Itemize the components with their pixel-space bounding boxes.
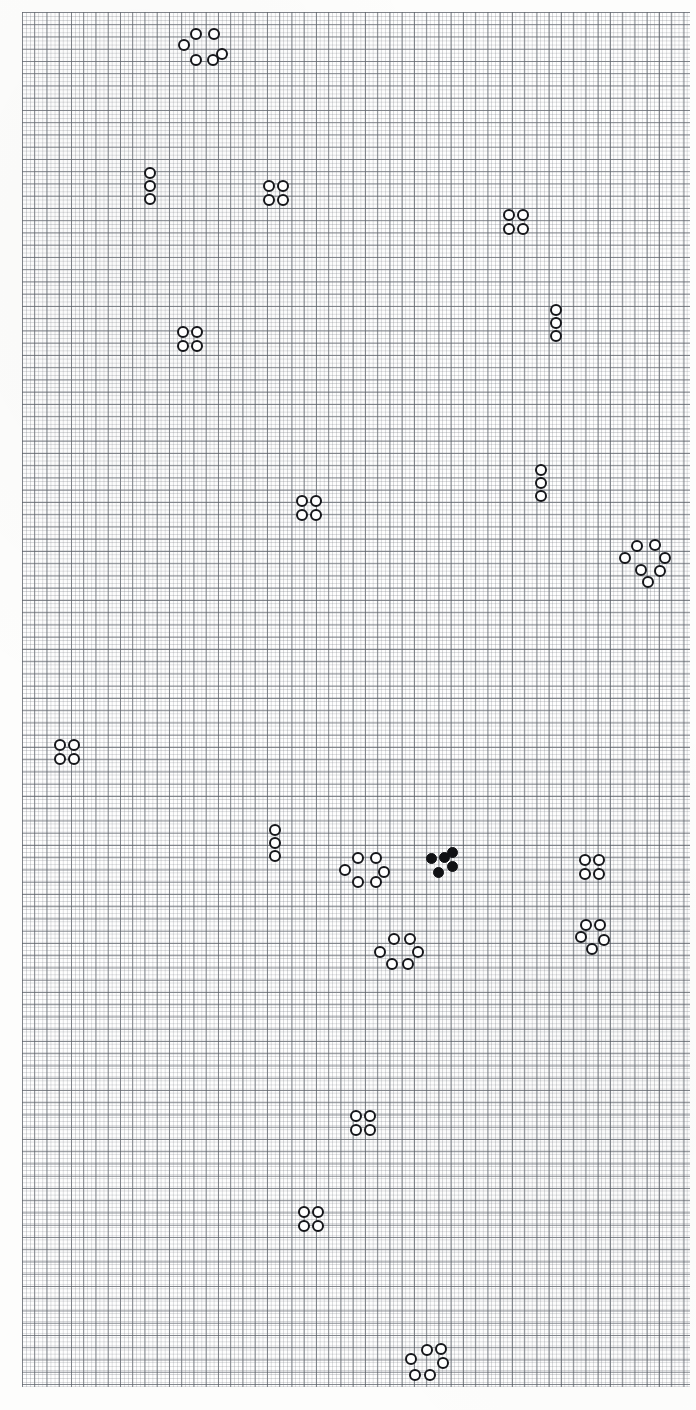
open-circle-marker <box>190 54 202 66</box>
open-circle-marker <box>296 495 308 507</box>
open-circle-marker <box>269 837 281 849</box>
open-circle-marker <box>586 943 598 955</box>
open-circle-marker <box>296 509 308 521</box>
open-circle-marker <box>68 739 80 751</box>
open-circle-marker <box>575 931 587 943</box>
open-circle-marker <box>144 193 156 205</box>
open-circle-marker <box>503 223 515 235</box>
open-circle-marker <box>402 958 414 970</box>
open-circle-marker <box>631 540 643 552</box>
open-circle-marker <box>269 824 281 836</box>
open-circle-marker <box>503 209 515 221</box>
open-circle-marker <box>550 304 562 316</box>
open-circle-marker <box>593 854 605 866</box>
open-circle-marker <box>177 340 189 352</box>
open-circle-marker <box>269 850 281 862</box>
open-circle-marker <box>54 753 66 765</box>
open-circle-marker <box>144 167 156 179</box>
open-circle-marker <box>68 753 80 765</box>
open-circle-marker <box>404 933 416 945</box>
open-circle-marker <box>409 1369 421 1381</box>
open-circle-marker <box>535 490 547 502</box>
open-circle-marker <box>535 464 547 476</box>
open-circle-marker <box>405 1353 417 1365</box>
open-circle-marker <box>263 194 275 206</box>
open-circle-marker <box>298 1206 310 1218</box>
open-circle-marker <box>277 194 289 206</box>
open-circle-marker <box>191 326 203 338</box>
open-circle-marker <box>378 866 390 878</box>
open-circle-marker <box>312 1220 324 1232</box>
graph-paper-figure <box>0 0 696 1410</box>
cluster-overlay <box>0 0 696 1410</box>
open-circle-marker <box>635 564 647 576</box>
open-circle-marker <box>364 1110 376 1122</box>
open-circle-marker <box>312 1206 324 1218</box>
open-circle-marker <box>190 28 202 40</box>
open-circle-marker <box>370 852 382 864</box>
open-circle-marker <box>352 852 364 864</box>
open-circle-marker <box>298 1220 310 1232</box>
open-circle-marker <box>593 868 605 880</box>
open-circle-marker <box>580 919 592 931</box>
open-circle-marker <box>352 876 364 888</box>
open-circle-marker <box>374 946 386 958</box>
open-circle-marker <box>388 933 400 945</box>
open-circle-marker <box>277 180 289 192</box>
open-circle-marker <box>579 868 591 880</box>
filled-circle-marker <box>426 853 437 864</box>
filled-circle-marker <box>433 867 444 878</box>
open-circle-marker <box>144 180 156 192</box>
open-circle-marker <box>642 576 654 588</box>
open-circle-marker <box>654 565 666 577</box>
open-circle-marker <box>350 1110 362 1122</box>
filled-circle-marker <box>447 861 458 872</box>
open-circle-marker <box>370 876 382 888</box>
open-circle-marker <box>598 934 610 946</box>
open-circle-marker <box>649 539 661 551</box>
open-circle-marker <box>424 1369 436 1381</box>
open-circle-marker <box>191 340 203 352</box>
filled-circle-marker <box>447 847 458 858</box>
open-circle-marker <box>517 223 529 235</box>
open-circle-marker <box>263 180 275 192</box>
open-circle-marker <box>435 1343 447 1355</box>
open-circle-marker <box>579 854 591 866</box>
open-circle-marker <box>550 330 562 342</box>
open-circle-marker <box>550 317 562 329</box>
open-circle-marker <box>517 209 529 221</box>
open-circle-marker <box>310 495 322 507</box>
open-circle-marker <box>364 1124 376 1136</box>
open-circle-marker <box>350 1124 362 1136</box>
open-circle-marker <box>177 326 189 338</box>
open-circle-marker <box>178 39 190 51</box>
open-circle-marker <box>594 919 606 931</box>
open-circle-marker <box>421 1344 433 1356</box>
open-circle-marker <box>339 864 351 876</box>
open-circle-marker <box>619 552 631 564</box>
open-circle-marker <box>386 958 398 970</box>
open-circle-marker <box>54 739 66 751</box>
open-circle-marker <box>535 477 547 489</box>
open-circle-marker <box>659 552 671 564</box>
caption-zone <box>0 1390 696 1410</box>
open-circle-marker <box>208 28 220 40</box>
open-circle-marker <box>310 509 322 521</box>
open-circle-marker <box>437 1357 449 1369</box>
open-circle-marker <box>412 946 424 958</box>
open-circle-marker <box>207 54 219 66</box>
